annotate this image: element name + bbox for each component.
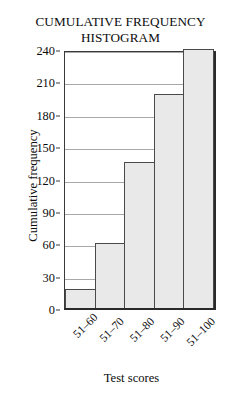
y-axis-tick-mark [56,83,60,84]
bar [124,162,155,308]
y-axis-tick-mark [56,310,60,311]
cumulative-frequency-histogram: CUMULATIVE FREQUENCY HISTOGRAM Cumulativ… [0,0,241,396]
x-axis-tick-label: 51–60 [71,315,97,341]
y-axis-tick-label: 120 [36,173,55,188]
y-axis-tick-mark [56,148,60,149]
y-axis-tick-label: 30 [43,270,55,285]
bar [183,49,214,308]
chart-title: CUMULATIVE FREQUENCY HISTOGRAM [0,14,241,45]
y-axis-tick-label: 0 [49,303,55,318]
bar [65,289,96,308]
y-axis-tick-labels: 0306090120150180210240 [0,51,60,310]
y-axis-tick-mark [56,115,60,116]
x-axis-title: Test scores [0,371,241,386]
y-axis-tick-mark [56,51,60,52]
y-axis-tick-mark [56,212,60,213]
bar [154,94,185,308]
bar-series [65,52,214,308]
y-axis-tick-label: 90 [43,205,55,220]
y-axis-tick-label: 150 [36,141,55,156]
y-axis-tick-label: 180 [36,108,55,123]
plot-area [64,51,216,310]
bar [95,243,126,308]
chart-title-line-1: CUMULATIVE FREQUENCY [0,14,241,30]
y-axis-tick-mark [56,277,60,278]
y-axis-tick-label: 240 [36,44,55,59]
y-axis-tick-label: 210 [36,76,55,91]
y-axis-tick-mark [56,245,60,246]
y-axis-tick-label: 60 [43,238,55,253]
x-axis-tick-labels: 51–6051–7051–8051–9051–100 [64,310,216,366]
y-axis-tick-mark [56,180,60,181]
